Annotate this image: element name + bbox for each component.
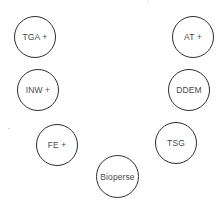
node-label: AT + — [184, 32, 202, 42]
node-tga[interactable]: TGA + — [14, 16, 56, 58]
node-label: DDEM — [176, 85, 201, 95]
node-label: TGA + — [23, 32, 48, 42]
node-label: Bioperse — [100, 172, 134, 182]
node-at[interactable]: AT + — [172, 16, 214, 58]
scan-artifact — [147, 1, 148, 3]
node-ddem[interactable]: DDEM — [168, 69, 210, 111]
node-bioperse[interactable]: Bioperse — [96, 155, 139, 198]
node-tsg[interactable]: TSG — [155, 122, 197, 164]
node-inw[interactable]: INW + — [17, 69, 59, 111]
node-label: INW + — [26, 85, 50, 95]
node-label: TSG — [167, 138, 185, 148]
node-fe[interactable]: FE + — [36, 124, 78, 166]
diagram-canvas: TGA + AT + INW + DDEM FE + TSG Bioperse — [0, 0, 224, 205]
node-label: FE + — [48, 140, 67, 150]
scan-artifact — [8, 128, 10, 129]
